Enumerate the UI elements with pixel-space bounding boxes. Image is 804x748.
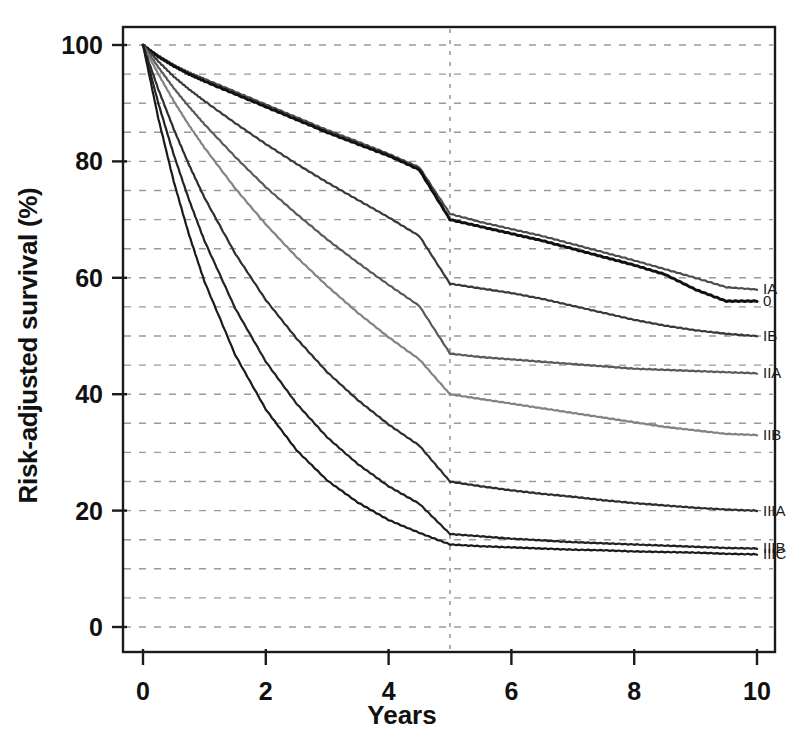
x-tick-label: 0 [136, 677, 150, 705]
curve-label-0: 0 [763, 292, 771, 309]
y-tick-label: 20 [75, 497, 103, 525]
plot-area: 020406080100 0246810 IA0IBIIAIIBIIIAIIIB… [0, 0, 804, 748]
curve-label-iia: IIA [763, 364, 781, 381]
plot-frame [123, 27, 775, 652]
x-axis-tick-labels: 0246810 [136, 677, 771, 705]
survival-curve-iiic [143, 45, 757, 555]
y-tick-label: 60 [75, 264, 103, 292]
y-tick-label: 40 [75, 380, 103, 408]
y-axis-tick-labels: 020406080100 [61, 31, 103, 641]
curve-label-iib: IIB [763, 426, 781, 443]
x-tick-label: 10 [743, 677, 771, 705]
y-tick-label: 80 [75, 147, 103, 175]
x-tick-label: 4 [382, 677, 396, 705]
x-tick-label: 8 [627, 677, 641, 705]
curve-label-iiic: IIIC [763, 545, 787, 562]
y-tick-label: 0 [89, 613, 103, 641]
y-tick-label: 100 [61, 31, 103, 59]
curve-label-iiia: IIIA [763, 502, 786, 519]
curve-label-ib: IB [763, 327, 777, 344]
grid-minor-horizontal [124, 45, 773, 627]
x-tick-label: 6 [504, 677, 518, 705]
x-tick-label: 2 [259, 677, 273, 705]
survival-curves [143, 45, 757, 555]
survival-chart-figure: Risk-adjusted survival (%) Years 0204060… [0, 0, 804, 748]
